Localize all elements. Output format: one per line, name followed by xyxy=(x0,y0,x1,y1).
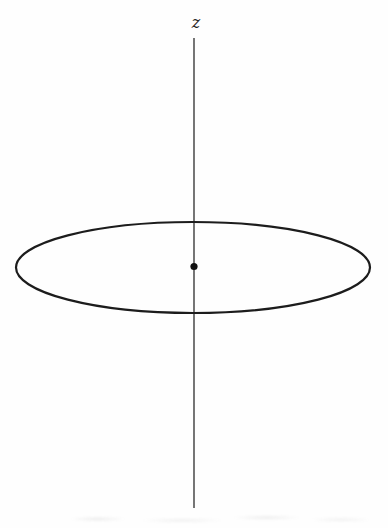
center-point-dot xyxy=(190,263,197,270)
figure-canvas: z xyxy=(0,0,388,528)
z-axis-label: z xyxy=(191,13,201,32)
ring-axis-figure: z xyxy=(0,0,388,528)
